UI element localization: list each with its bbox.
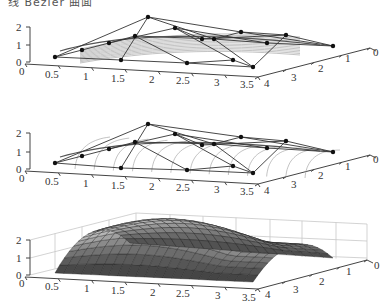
control-point — [119, 166, 123, 170]
x-tick-label: 1 — [84, 282, 90, 294]
control-point — [146, 122, 150, 126]
iso-curve — [286, 149, 321, 177]
y-tick-label: 1 — [346, 265, 352, 277]
control-point — [265, 146, 269, 150]
x-tick-label: 3 — [215, 289, 221, 301]
x-tick-label: 1 — [83, 70, 89, 82]
control-point — [80, 154, 84, 158]
x-tick-label: 1.5 — [111, 179, 125, 191]
x-tick — [258, 184, 260, 187]
y-tick-label: 1 — [345, 52, 351, 64]
x-tick-label: 2 — [150, 286, 156, 298]
control-point — [239, 135, 243, 139]
plot-shaded-surface: 01200.511.522.533.501234 — [16, 213, 380, 303]
z-tick-label: 2 — [16, 127, 22, 139]
figure-canvas: 01200.511.522.533.501234 01200.511.522.5… — [0, 0, 388, 308]
control-point — [251, 65, 255, 69]
y-tick-label: 3 — [293, 283, 299, 295]
z-tick-label: 1 — [16, 146, 22, 158]
y-tick-label: 2 — [318, 62, 324, 74]
y-axis-tail — [367, 260, 373, 263]
y-tick-label: 0 — [373, 153, 379, 165]
control-point — [239, 30, 243, 34]
x-axis-line — [25, 171, 258, 184]
x-tick-label: 0.5 — [45, 68, 59, 80]
control-point — [107, 147, 111, 151]
control-point — [146, 15, 150, 19]
z-tick-label: 1 — [16, 252, 22, 264]
control-point — [212, 142, 216, 146]
control-point — [231, 164, 235, 168]
y-tick-label: 4 — [264, 184, 270, 196]
z-tick-label: 2 — [16, 21, 22, 33]
iso-curve — [171, 142, 206, 172]
x-tick-label: 3 — [214, 183, 220, 195]
plot-control-net-v: 01200.511.522.533.501234 — [16, 122, 379, 197]
control-point — [80, 48, 84, 52]
control-point — [212, 37, 216, 41]
x-tick — [258, 77, 260, 80]
x-tick-label: 3.5 — [242, 291, 256, 303]
surface-mesh — [55, 219, 333, 282]
control-point — [284, 139, 288, 143]
control-net-edge — [55, 163, 253, 173]
iso-curve — [209, 145, 244, 175]
x-tick-label: 0 — [19, 172, 25, 184]
control-point — [331, 44, 335, 48]
y-tick-label: 2 — [319, 275, 325, 287]
y-tick-label: 3 — [291, 71, 297, 83]
control-point — [331, 150, 335, 154]
y-tick-label: 3 — [291, 178, 297, 190]
y-tick-label: 0 — [373, 46, 379, 58]
z-tick-label: 1 — [16, 39, 22, 51]
control-point — [107, 41, 111, 45]
control-point — [119, 58, 123, 62]
iso-curve — [94, 138, 129, 170]
y-tick-label: 1 — [345, 160, 351, 172]
control-point — [251, 171, 255, 175]
x-tick-label: 2.5 — [176, 74, 190, 86]
control-point — [133, 140, 137, 144]
control-point — [284, 33, 288, 37]
y-tick-label: 0 — [374, 259, 380, 271]
x-tick-label: 0.5 — [45, 280, 59, 292]
x-tick-label: 1.5 — [111, 72, 125, 84]
plot-control-net-u: 01200.511.522.533.501234 — [16, 15, 379, 90]
x-tick-label: 2.5 — [176, 181, 190, 193]
x-tick-label: 0 — [19, 277, 25, 289]
control-point — [265, 41, 269, 45]
x-tick-label: 3.5 — [240, 185, 254, 197]
control-point — [200, 37, 204, 41]
control-point — [133, 34, 137, 38]
x-tick-label: 0.5 — [45, 175, 59, 187]
x-tick-label: 2.5 — [176, 287, 190, 299]
control-point — [173, 26, 177, 30]
control-point — [173, 132, 177, 136]
control-point — [53, 161, 57, 165]
x-tick-label: 0 — [19, 65, 25, 77]
x-tick-label: 1 — [83, 177, 89, 189]
x-tick-label: 2 — [149, 180, 155, 192]
control-net-edge — [135, 142, 187, 170]
x-axis-line — [25, 64, 258, 77]
y-tick-label: 2 — [318, 169, 324, 181]
y-tick-label: 4 — [264, 77, 270, 89]
control-point — [231, 58, 235, 62]
control-point — [185, 61, 189, 65]
x-tick — [258, 289, 260, 292]
x-tick-label: 3 — [214, 76, 220, 88]
control-net-edge — [55, 17, 333, 57]
x-tick-label: 3.5 — [240, 78, 254, 90]
x-tick-label: 1.5 — [111, 284, 125, 296]
control-point — [185, 168, 189, 172]
z-tick-label: 2 — [16, 234, 22, 246]
iso-curve — [133, 140, 168, 171]
y-tick-label: 4 — [265, 288, 271, 300]
control-point — [200, 143, 204, 147]
control-point — [53, 55, 57, 59]
x-tick-label: 2 — [149, 73, 155, 85]
iso-curve — [267, 148, 302, 177]
